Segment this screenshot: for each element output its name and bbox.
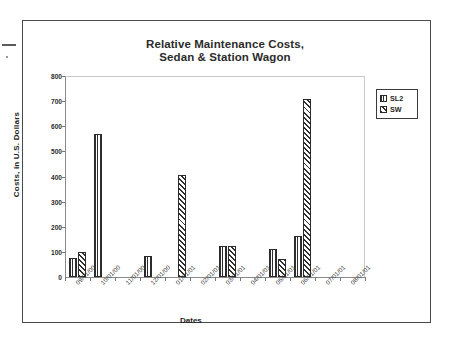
legend-item: SW <box>380 104 414 115</box>
bar-sl2-06-01-01 <box>294 236 302 277</box>
x-tick-mark <box>90 277 91 281</box>
plot-area <box>65 76 365 277</box>
y-tick-mark <box>61 177 65 178</box>
y-tick-label: 400 <box>36 174 62 181</box>
x-tick-mark <box>140 277 141 281</box>
legend: SL2 SW <box>376 89 418 119</box>
x-tick-mark <box>115 277 116 281</box>
x-tick-mark <box>165 277 166 281</box>
chart-title-line1: Relative Maintenance Costs, <box>90 38 360 51</box>
x-tick-mark <box>240 277 241 281</box>
screenshot-root: { "page": { "background": "#ffffff", "fr… <box>0 0 456 346</box>
x-tick-mark <box>190 277 191 281</box>
y-tick-mark <box>61 202 65 203</box>
x-tick-mark <box>340 277 341 281</box>
y-axis-ticks: 0100200300400500600700800 <box>32 0 62 346</box>
x-tick-mark <box>215 277 216 281</box>
x-tick-mark <box>65 277 66 281</box>
x-tick-mark <box>365 277 366 281</box>
y-tick-label: 300 <box>36 199 62 206</box>
bar-sl2-09-01-00 <box>69 258 77 277</box>
chart-title: Relative Maintenance Costs, Sedan & Stat… <box>90 38 360 64</box>
y-tick-label: 800 <box>36 73 62 80</box>
y-tick-mark <box>61 227 65 228</box>
y-tick-mark <box>61 151 65 152</box>
y-tick-mark <box>61 76 65 77</box>
x-tick-mark <box>290 277 291 281</box>
x-tick-mark <box>315 277 316 281</box>
y-tick-label: 500 <box>36 148 62 155</box>
legend-label-sl2: SL2 <box>390 95 403 103</box>
y-tick-label: 100 <box>36 249 62 256</box>
y-axis-title: Costs, in U.S. Dollars <box>12 75 21 235</box>
bar-sl2-10-01-00 <box>94 134 102 277</box>
y-tick-mark <box>61 126 65 127</box>
scan-artifact-dash <box>2 44 16 46</box>
legend-swatch-sw-icon <box>380 106 387 113</box>
bar-sw-06-01-01 <box>303 99 311 277</box>
bar-sl2-05-01-01 <box>269 249 277 277</box>
legend-label-sw: SW <box>390 106 402 114</box>
y-tick-mark <box>61 101 65 102</box>
bar-sw-01-01-01 <box>178 175 186 277</box>
x-tick-mark <box>265 277 266 281</box>
y-tick-mark <box>61 252 65 253</box>
legend-swatch-sl2-icon <box>380 95 387 102</box>
y-tick-label: 700 <box>36 98 62 105</box>
legend-item: SL2 <box>380 93 414 104</box>
y-tick-label: 200 <box>36 224 62 231</box>
y-tick-label: 600 <box>36 123 62 130</box>
x-axis-title: Dates <box>180 316 202 325</box>
scan-artifact-dot <box>6 56 8 58</box>
bar-sl2-03-01-01 <box>219 246 227 277</box>
bar-sl2-12-01-00 <box>144 256 152 277</box>
y-tick-label: 0 <box>36 274 62 281</box>
chart-title-line2: Sedan & Station Wagon <box>90 51 360 64</box>
